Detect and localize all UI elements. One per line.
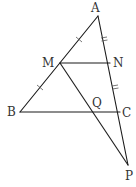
label-c: C [122,106,131,120]
label-m: M [42,56,54,70]
label-q: Q [92,96,102,110]
label-b: B [7,105,16,119]
label-n: N [113,56,124,70]
label-a: A [90,1,100,15]
label-p: P [125,169,133,183]
geometry-diagram: A M N B Q C P [0,0,136,187]
segment-ab [20,16,98,112]
tick-mark-an [101,37,108,41]
